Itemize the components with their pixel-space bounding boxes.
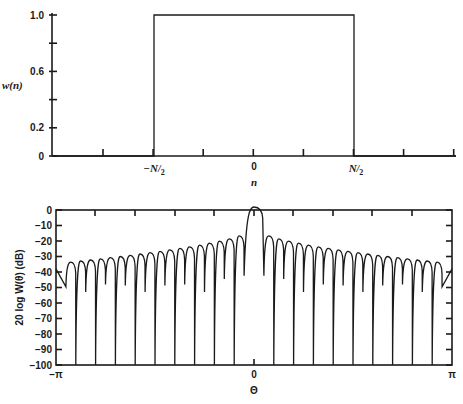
bottom-x-label: Θ	[250, 385, 258, 396]
x-tick-label-neg-pi: −π	[49, 369, 63, 380]
x-tick-label-zero: 0	[251, 369, 257, 380]
top-y-label: w(n)	[2, 79, 23, 92]
y-tick-label: 0	[46, 205, 52, 216]
y-tick-label: −60	[35, 298, 52, 309]
y-tick-label: 1.0	[30, 10, 44, 21]
y-tick-label: 0	[38, 151, 44, 162]
window-curve	[52, 15, 456, 156]
y-tick-label: −80	[35, 329, 52, 340]
spectrum-curve	[56, 207, 452, 365]
top-x-label: n	[251, 176, 257, 188]
x-tick-label-neg-n2: −N/2	[143, 162, 164, 177]
y-tick-label: −10	[35, 220, 52, 231]
x-tick-label-zero: 0	[251, 161, 257, 172]
top-chart: 00.20.61.0−N/20N/2nw(n)	[2, 10, 456, 189]
x-tick-label-pos-n2: N/2	[348, 162, 364, 177]
y-tick-label: −40	[35, 267, 52, 278]
y-tick-label: 0.2	[30, 122, 44, 133]
figure: 00.20.61.0−N/20N/2nw(n) 0−10−20−30−40−50…	[0, 0, 463, 404]
y-tick-label: −20	[35, 236, 52, 247]
y-tick-label: −30	[35, 251, 52, 262]
y-tick-label: −50	[35, 282, 52, 293]
y-tick-label: −90	[35, 344, 52, 355]
bottom-chart: 0−10−20−30−40−50−60−70−80−90−100−π0πΘ20 …	[14, 205, 456, 397]
bottom-y-label: 20 log W(θ) (dB)	[14, 250, 25, 326]
y-tick-label: 0.6	[30, 66, 44, 77]
y-tick-label: −70	[35, 313, 52, 324]
x-tick-label-pi: π	[448, 369, 456, 380]
